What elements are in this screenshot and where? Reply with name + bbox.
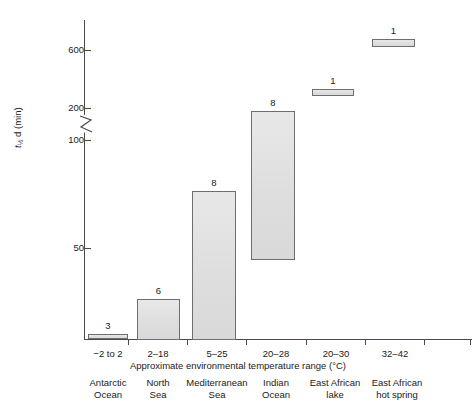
y-tick-label-600: 600 <box>46 45 84 55</box>
x-tick-0 <box>128 339 129 345</box>
bar-north-sea[interactable] <box>137 299 180 340</box>
x-range-label-east-african-hot-spring: 32–42 <box>365 348 425 359</box>
y-axis-line <box>84 20 85 340</box>
bar-east-african-lake[interactable] <box>312 89 354 96</box>
x-range-label-east-african-lake: 20–30 <box>306 348 366 359</box>
y-tick-label-200: 200 <box>46 103 84 113</box>
x-tick-5 <box>424 339 425 345</box>
bar-mediterranean-sea[interactable] <box>192 191 236 340</box>
x-tick-3 <box>306 339 307 345</box>
bar-count-east-african-hot-spring: 1 <box>372 26 415 36</box>
chart-container: t½ d (min) 600 200 100 50 3 6 8 8 1 1 −2… <box>0 0 476 407</box>
y-tick-label-100: 100 <box>46 135 84 145</box>
bar-count-east-african-lake: 1 <box>312 76 354 86</box>
x-category-east-african-hot-spring: East African hot spring <box>352 377 442 400</box>
y-axis-title-symbol: t <box>12 145 23 148</box>
x-tick-1 <box>187 339 188 345</box>
bar-antarctic-ocean[interactable] <box>88 334 128 339</box>
x-range-label-mediterranean-sea: 5–25 <box>187 348 247 359</box>
y-tick-label-50: 50 <box>46 243 84 253</box>
y-axis-title-subscript: ½ <box>17 140 24 146</box>
bar-east-african-hot-spring[interactable] <box>372 39 415 47</box>
y-axis-title: t½ d (min) <box>12 107 24 148</box>
bar-count-antarctic-ocean: 3 <box>88 321 128 331</box>
y-axis-title-rest: d (min) <box>12 107 23 139</box>
x-tick-6 <box>470 339 471 345</box>
x-range-label-north-sea: 2–18 <box>128 348 188 359</box>
x-category-line2: hot spring <box>352 389 442 401</box>
x-axis-title: Approximate environmental temperature ra… <box>0 360 476 371</box>
bar-count-mediterranean-sea: 8 <box>192 178 236 188</box>
bar-count-indian-ocean: 8 <box>251 98 295 108</box>
x-tick-4 <box>365 339 366 345</box>
y-axis-break-icon <box>78 115 94 133</box>
x-category-line1: East African <box>352 377 442 389</box>
bar-count-north-sea: 6 <box>137 286 180 296</box>
x-tick-2 <box>246 339 247 345</box>
x-range-label-indian-ocean: 20–28 <box>246 348 306 359</box>
bar-indian-ocean[interactable] <box>251 111 295 260</box>
